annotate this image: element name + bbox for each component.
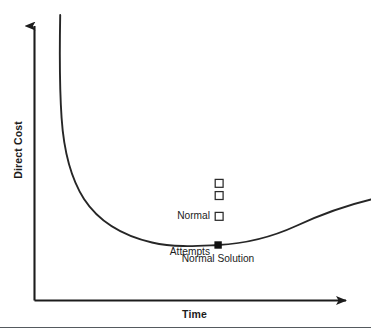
chart-canvas: [0, 0, 371, 335]
y-axis-label-text: Direct Cost: [12, 121, 24, 179]
y-axis-label: Direct Cost: [10, 110, 26, 190]
normal-solution-annotation: Normal Solution: [158, 253, 278, 265]
normal-attempt-marker-3: [215, 212, 223, 220]
page-divider-rule: [0, 327, 371, 328]
normal-attempts-line-1: Normal: [140, 210, 210, 222]
normal-attempt-marker-1: [215, 179, 223, 187]
x-axis-label: Time: [34, 308, 355, 320]
normal-attempt-marker-2: [215, 192, 223, 200]
normal-solution-marker: [214, 241, 221, 248]
direct-cost-curve: [60, 15, 371, 246]
normal-attempts-annotation: Normal Attempts: [140, 186, 210, 282]
direct-cost-vs-time-chart: Direct Cost Time Normal Attempts Normal …: [0, 0, 371, 335]
